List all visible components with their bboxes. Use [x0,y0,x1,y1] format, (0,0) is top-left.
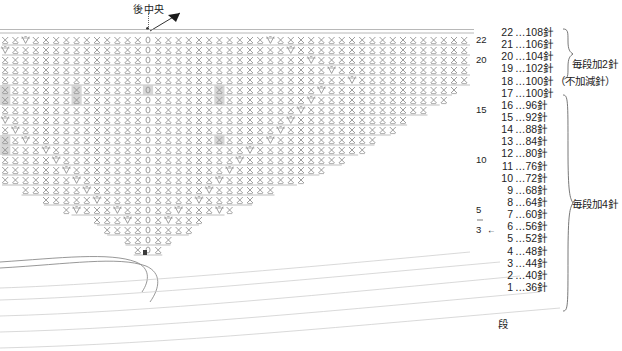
stitch-single-crochet [23,67,29,74]
stitch-single-crochet [43,127,49,134]
stitch-single-crochet [94,117,100,124]
stitch-single-crochet [53,127,59,134]
spiral-guide-curve [0,276,520,316]
stitch-single-crochet [216,57,222,64]
legend-separator: … [513,245,526,257]
stitch-single-crochet [410,87,416,94]
stitch-increase [215,177,224,184]
row-axis-label: 段 [498,316,508,331]
stitch-increase [1,117,10,124]
stitch-single-crochet [176,217,182,224]
stitch-single-crochet [247,107,253,114]
grid-row-number: 3 [476,224,481,235]
stitch-single-crochet [349,117,355,124]
stitch-single-crochet [400,57,406,64]
stitch-single-crochet [349,97,355,104]
stitch-single-crochet [74,117,80,124]
stitch-single-crochet [165,107,171,114]
stitch-increase [21,137,30,144]
stitch-single-crochet [155,37,161,44]
stitch-single-crochet [298,177,304,184]
stitch-single-crochet [247,37,253,44]
stitch-single-crochet [104,117,110,124]
legend-row: 4…48針 [498,245,622,257]
stitch-chain [146,197,150,203]
stitch-single-crochet [125,227,131,234]
stitch-single-crochet [329,147,335,154]
stitch-single-crochet [84,207,90,214]
stitch-single-crochet [216,67,222,74]
stitch-single-crochet [53,77,59,84]
stitch-single-crochet [206,107,212,114]
legend-stitch-count: 72針 [526,172,548,184]
stitch-single-crochet [288,147,294,154]
brace-rows-19-22 [562,28,574,80]
stitch-increase [307,97,316,104]
stitch-single-crochet [308,127,314,134]
stitch-single-crochet [63,137,69,144]
stitch-single-crochet [257,47,263,54]
stitch-single-crochet [33,157,39,164]
stitch-single-crochet [206,127,212,134]
stitch-single-crochet [267,57,273,64]
stitch-single-crochet [308,157,314,164]
legend-separator: … [513,111,526,123]
stitch-single-crochet [237,117,243,124]
stitch-single-crochet [53,57,59,64]
legend-row-number: 17 [498,87,513,99]
stitch-single-crochet [74,57,80,64]
brace-rows-1-17 [562,94,574,312]
stitch-single-crochet [318,157,324,164]
stitch-single-crochet [390,117,396,124]
stitch-single-crochet [33,87,39,94]
stitch-single-crochet [237,37,243,44]
legend-separator: … [513,172,526,184]
stitch-single-crochet [53,137,59,144]
stitch-single-crochet [135,37,141,44]
stitch-single-crochet [12,107,18,114]
stitch-single-crochet [349,137,355,144]
stitch-single-crochet [104,87,110,94]
stitch-single-crochet [2,167,8,174]
stitch-single-crochet [33,137,39,144]
legend-row-number: 14 [498,123,513,135]
stitch-single-crochet [441,77,447,84]
legend-separator: … [513,160,526,172]
stitch-single-crochet [349,57,355,64]
stitch-single-crochet [135,137,141,144]
stitch-single-crochet [12,167,18,174]
stitch-chain [146,97,150,103]
stitch-single-crochet [155,87,161,94]
stitch-single-crochet [186,217,192,224]
legend-stitch-count: 96針 [526,99,548,111]
stitch-single-crochet [84,127,90,134]
stitch-single-crochet [84,37,90,44]
stitch-single-crochet [216,187,222,194]
stitch-single-crochet [176,87,182,94]
stitch-single-crochet [227,87,233,94]
legend-stitch-count: 106針 [526,38,554,50]
stitch-single-crochet [227,97,233,104]
stitch-single-crochet [74,187,80,194]
stitch-single-crochet [410,47,416,54]
stitch-single-crochet [63,57,69,64]
stitch-single-crochet [278,97,284,104]
stitch-single-crochet [329,97,335,104]
stitch-single-crochet [308,117,314,124]
stitch-single-crochet [125,147,131,154]
stitch-single-crochet [267,187,273,194]
stitch-single-crochet [186,157,192,164]
legend-separator: … [513,281,526,293]
stitch-single-crochet [410,67,416,74]
stitch-single-crochet [318,37,324,44]
stitch-single-crochet [63,187,69,194]
spiral-guide-curve [0,262,500,300]
stitch-single-crochet [278,37,284,44]
stitch-single-crochet [94,187,100,194]
stitch-single-crochet [33,57,39,64]
stitch-single-crochet [135,207,141,214]
stitch-chain [146,57,150,63]
stitch-single-crochet [308,47,314,54]
stitch-single-crochet [104,97,110,104]
stitch-single-crochet [12,37,18,44]
